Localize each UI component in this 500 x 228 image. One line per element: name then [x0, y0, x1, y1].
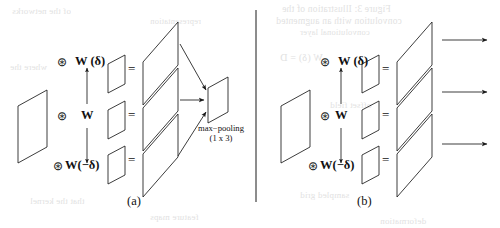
kernel-label-b-top: W (δ)	[338, 55, 368, 68]
conv-symbol-a-bot: ⊛	[53, 160, 63, 172]
equals-a-mid: =	[128, 108, 135, 121]
input-feature-map-b	[281, 90, 310, 163]
response-map-a-bot	[143, 114, 178, 197]
conv-symbol-a-mid: ⊛	[57, 110, 67, 122]
input-feature-map-a	[18, 90, 47, 163]
output-feature-map-a	[208, 77, 228, 123]
kernel-label-b-mid: W	[335, 109, 348, 122]
conv-symbol-b-mid: ⊛	[320, 110, 330, 122]
response-map-b-bot	[397, 114, 432, 197]
conv-symbol-a-top: ⊛	[57, 56, 67, 68]
kernel-map-b-bot	[362, 146, 379, 184]
kernel-map-a-mid	[108, 101, 125, 139]
response-map-a-mid	[143, 68, 178, 151]
kernel-map-a-top	[108, 55, 125, 93]
kernel-map-a-bot	[108, 146, 125, 184]
response-map-b-mid	[397, 68, 432, 151]
equals-b-top: =	[382, 62, 389, 75]
equals-b-bot: =	[382, 153, 389, 166]
kernel-label-b-bot: W(−δ)	[320, 159, 354, 172]
panel-caption-b: (b)	[357, 194, 372, 209]
kernel-label-a-bot: W(−δ)	[65, 159, 99, 172]
kernel-label-a-top: W (δ)	[75, 55, 105, 68]
panel-caption-a: (a)	[127, 194, 141, 209]
conv-symbol-b-bot: ⊛	[308, 160, 318, 172]
equals-a-top: =	[128, 62, 135, 75]
conv-symbol-b-top: ⊛	[320, 56, 330, 68]
kernel-map-b-mid	[362, 101, 379, 139]
figure-root: Figure 3: Illustration of the convolutio…	[0, 0, 500, 228]
max-pooling-label: max−pooling (1 x 3)	[186, 124, 256, 143]
response-map-a-top	[143, 22, 178, 105]
response-map-b-top	[397, 22, 432, 105]
max-pooling-label-line2: (1 x 3)	[186, 134, 256, 144]
equals-a-bot: =	[128, 153, 135, 166]
merge-arrow-top-a	[180, 44, 206, 90]
equals-b-mid: =	[382, 108, 389, 121]
kernel-label-a-mid: W	[81, 109, 94, 122]
diagram-canvas	[0, 0, 500, 228]
